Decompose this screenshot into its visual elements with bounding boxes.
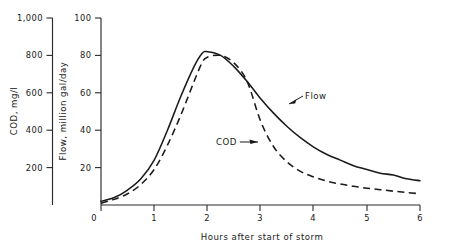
cod-ticklabel-600: 600: [26, 88, 43, 98]
chart-figure: 1,000 800 600 400 200 COD, mg/l 100 80 6…: [0, 0, 465, 249]
cod-annotation-label: COD: [216, 137, 237, 147]
flow-ticklabel-60: 60: [80, 88, 91, 98]
flow-annotation: Flow: [289, 91, 327, 104]
flow-annotation-label: Flow: [305, 91, 327, 101]
cod-ticklabel-200: 200: [26, 163, 43, 173]
flow-axis: 100 80 60 40 20 Flow, million gal/day: [58, 13, 101, 205]
cod-leader-arrow-icon: [250, 140, 259, 145]
x-ticklabel-5: 5: [364, 213, 370, 223]
cod-axis-title: COD, mg/l: [9, 87, 19, 135]
x-ticklabel-3: 3: [257, 213, 263, 223]
cod-curve: [101, 55, 420, 203]
cod-ticklabel-800: 800: [26, 50, 43, 60]
x-ticklabel-1: 1: [151, 213, 157, 223]
cod-ticklabel-400: 400: [26, 125, 43, 135]
cod-axis: 1,000 800 600 400 200 COD, mg/l: [9, 13, 53, 205]
x-ticklabel-4: 4: [310, 213, 316, 223]
cod-annotation: COD: [216, 137, 258, 147]
flow-ticklabel-40: 40: [80, 125, 91, 135]
x-axis: 0 1 2 3 4 5 6 Hours after start of storm: [91, 205, 423, 242]
x-axis-title: Hours after start of storm: [201, 232, 324, 242]
flow-axis-title: Flow, million gal/day: [58, 62, 68, 161]
flow-ticklabel-100: 100: [74, 13, 91, 23]
x-ticklabel-2: 2: [204, 213, 210, 223]
cod-ticklabel-1000: 1,000: [17, 13, 43, 23]
chart-svg: 1,000 800 600 400 200 COD, mg/l 100 80 6…: [0, 0, 465, 249]
flow-curve: [101, 51, 420, 201]
flow-ticklabel-20: 20: [80, 163, 91, 173]
flow-ticklabel-80: 80: [80, 50, 91, 60]
x-ticklabel-0: 0: [91, 213, 97, 223]
x-ticklabel-6: 6: [417, 213, 423, 223]
